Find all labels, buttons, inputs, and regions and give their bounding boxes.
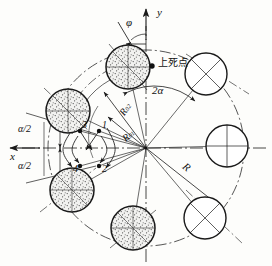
station-bottom xyxy=(111,206,155,250)
point-dot-2 xyxy=(97,164,101,168)
point-label-2: 2 xyxy=(102,163,107,174)
hub-center-point xyxy=(144,146,147,149)
point-label-4: 4 xyxy=(73,163,78,174)
plain-stations xyxy=(184,53,248,239)
point-dot-1 xyxy=(97,129,101,133)
alpha-half-upper-label: α/2 xyxy=(18,123,31,134)
station-right xyxy=(206,125,248,167)
top-dead-center-marker xyxy=(149,63,154,68)
diagram-canvas: y x φ 2α 上死点 R R02 R01 α/2 α/2 1 2 3 4 xyxy=(0,0,272,266)
point-dot-4 xyxy=(78,164,82,168)
two-alpha-angle-label: 2α xyxy=(152,84,163,96)
phi-angle-label: φ xyxy=(126,16,132,28)
station-lower-right xyxy=(184,197,226,239)
transition-point-dots xyxy=(78,129,101,168)
x-axis-label: x xyxy=(10,150,15,162)
top-dead-center-label: 上死点 xyxy=(158,54,188,69)
station-top xyxy=(106,45,150,89)
diagram-svg xyxy=(0,0,272,266)
hatched-stations xyxy=(46,45,155,250)
station-lower-left xyxy=(50,168,94,212)
station-upper-right xyxy=(185,53,227,95)
point-label-3: 3 xyxy=(82,119,87,130)
y-axis-label: y xyxy=(157,6,162,18)
alpha-half-lower-label: α/2 xyxy=(18,160,31,171)
point-label-1: 1 xyxy=(102,119,107,130)
